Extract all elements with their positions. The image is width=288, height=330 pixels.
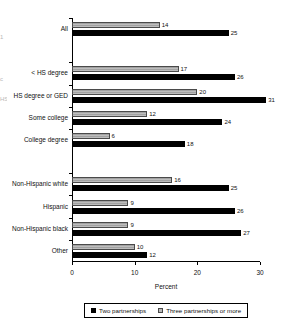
- category-label: Hispanic: [43, 203, 68, 210]
- bar-value-label: 6: [112, 133, 115, 139]
- bar-value-label: 18: [187, 141, 194, 147]
- bar-two-partnerships: 18: [72, 141, 185, 147]
- bar-value-label: 27: [243, 230, 250, 236]
- y-axis-tick: [69, 173, 72, 174]
- bar-value-label: 25: [231, 30, 238, 36]
- category-label: Non-Hispanic white: [12, 181, 68, 188]
- bar-two-partnerships: 27: [72, 230, 241, 236]
- bar-three-partnerships-or-more: 12: [72, 111, 147, 117]
- black-square-icon: [91, 308, 96, 313]
- bar-value-label: 14: [162, 22, 169, 28]
- x-axis-tick-label: 0: [70, 269, 74, 276]
- category-label: Other: [52, 248, 68, 255]
- bar-two-partnerships: 24: [72, 119, 222, 125]
- bar-value-label: 12: [149, 252, 156, 258]
- bar-value-label: 31: [268, 97, 275, 103]
- y-axis-tick: [69, 107, 72, 108]
- bar-value-label: 24: [224, 119, 231, 125]
- category-label: Non-Hispanic black: [12, 225, 68, 232]
- bar-three-partnerships-or-more: 16: [72, 177, 172, 183]
- category-label: < HS degree: [31, 70, 68, 77]
- bar-value-label: 26: [237, 74, 244, 80]
- x-axis-tick: [72, 262, 73, 265]
- y-axis-tick: [69, 195, 72, 196]
- bar-two-partnerships: 26: [72, 208, 235, 214]
- bar-value-label: 12: [149, 111, 156, 117]
- x-axis-tick-label: 30: [256, 269, 263, 276]
- gray-square-icon: [158, 308, 163, 313]
- bar-three-partnerships-or-more: 10: [72, 244, 135, 250]
- y-axis-tick: [69, 129, 72, 130]
- x-axis-tick: [197, 262, 198, 265]
- legend-label: Two partnerships: [99, 307, 146, 314]
- legend-item-three-partnerships-or-more: Three partnerships or more: [158, 307, 241, 314]
- y-axis-tick: [69, 240, 72, 241]
- y-axis-tick: [69, 85, 72, 86]
- legend-label: Three partnerships or more: [166, 307, 241, 314]
- bar-three-partnerships-or-more: 14: [72, 22, 160, 28]
- bar-two-partnerships: 25: [72, 185, 229, 191]
- x-axis-tick-label: 20: [194, 269, 201, 276]
- x-axis-line: [72, 261, 260, 262]
- bar-value-label: 9: [130, 222, 133, 228]
- y-axis-tick: [69, 18, 72, 19]
- x-axis-tick: [135, 262, 136, 265]
- bar-three-partnerships-or-more: 17: [72, 66, 179, 72]
- category-label: Some college: [29, 115, 68, 122]
- page-edge-artifact: c: [0, 76, 7, 82]
- bar-two-partnerships: 25: [72, 30, 229, 36]
- y-axis-tick: [69, 218, 72, 219]
- bar-value-label: 20: [199, 89, 206, 95]
- bar-three-partnerships-or-more: 9: [72, 222, 128, 228]
- category-label: HS degree or GED: [13, 92, 68, 99]
- bar-two-partnerships: 31: [72, 97, 266, 103]
- category-label: College degree: [24, 137, 68, 144]
- plot-area: 0102030All1425< HS degree1726HS degree o…: [72, 18, 260, 262]
- bar-value-label: 9: [130, 200, 133, 206]
- chart-legend: Two partnerships Three partnerships or m…: [84, 303, 248, 318]
- bar-value-label: 16: [174, 177, 181, 183]
- bar-value-label: 26: [237, 208, 244, 214]
- x-axis-tick-label: 10: [131, 269, 138, 276]
- x-axis-tick: [260, 262, 261, 265]
- bar-three-partnerships-or-more: 20: [72, 89, 197, 95]
- bar-two-partnerships: 26: [72, 74, 235, 80]
- bar-value-label: 10: [137, 244, 144, 250]
- bar-chart: 1 c HS 0102030All1425< HS degree1726HS d…: [0, 0, 288, 330]
- page-edge-artifact: HS: [0, 96, 7, 102]
- page-edge-artifact: 1: [0, 34, 7, 40]
- bar-two-partnerships: 12: [72, 252, 147, 258]
- bar-three-partnerships-or-more: 6: [72, 133, 110, 139]
- y-axis-tick: [69, 62, 72, 63]
- bar-value-label: 25: [231, 185, 238, 191]
- x-axis-title: Percent: [72, 283, 260, 290]
- category-label: All: [61, 26, 68, 33]
- legend-item-two-partnerships: Two partnerships: [91, 307, 146, 314]
- bar-value-label: 17: [181, 66, 188, 72]
- bar-three-partnerships-or-more: 9: [72, 200, 128, 206]
